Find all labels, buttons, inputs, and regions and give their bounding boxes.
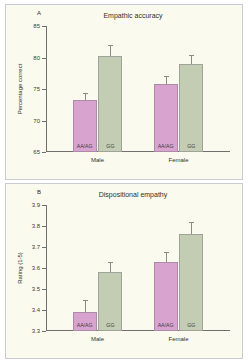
panel-b-y-tick-label: 3.9 bbox=[32, 202, 40, 208]
bar-female-gg: GG bbox=[179, 234, 203, 331]
panel-b-ylabel-text: Rating (1-5) bbox=[17, 252, 23, 284]
panel-a-y-tick-label: 65 bbox=[33, 149, 40, 155]
error-bar-cap bbox=[108, 262, 113, 263]
panel-a-ylabel-text: Percentage correct bbox=[17, 64, 23, 115]
bar-genotype-label: GG bbox=[99, 143, 121, 149]
panel-b-y-tick bbox=[42, 268, 46, 269]
bar-genotype-label: GG bbox=[99, 322, 121, 328]
bar-female-aa-ag: AA/AG bbox=[154, 262, 178, 331]
error-bar-cap bbox=[189, 222, 194, 223]
panel-b-y-tick bbox=[42, 205, 46, 206]
panel-b-y-tick-label: 3.5 bbox=[32, 286, 40, 292]
panel-a-title: Empathic accuracy bbox=[6, 12, 242, 19]
x-axis-group-label-male: Male bbox=[91, 157, 104, 163]
panel-a-y-tick-label: 80 bbox=[33, 55, 40, 61]
bar-female-aa-ag: AA/AG bbox=[154, 84, 178, 152]
panel-a-y-tick-label: 75 bbox=[33, 86, 40, 92]
panel-a-empathic-accuracy: A Empathic accuracy Percentage correct 6… bbox=[5, 4, 243, 180]
panel-a-y-axis bbox=[46, 26, 47, 152]
panel-a-y-tick bbox=[42, 152, 46, 153]
bar-male-aa-ag: AA/AG bbox=[73, 312, 97, 331]
panel-a-y-tick bbox=[42, 89, 46, 90]
panel-a-plot-area: 6570758085AA/AGGGMaleAA/AGGGFemale bbox=[46, 26, 230, 152]
panel-a-y-tick bbox=[42, 121, 46, 122]
bar-genotype-label: GG bbox=[180, 322, 202, 328]
bar-male-gg: GG bbox=[98, 56, 122, 152]
panel-a-y-tick-label: 70 bbox=[33, 118, 40, 124]
bar-female-gg: GG bbox=[179, 64, 203, 152]
panel-a-y-tick bbox=[42, 58, 46, 59]
error-bar bbox=[191, 56, 192, 64]
bar-male-gg: GG bbox=[98, 272, 122, 331]
error-bar-cap bbox=[108, 45, 113, 46]
panel-b-y-tick bbox=[42, 331, 46, 332]
bar-genotype-label: AA/AG bbox=[155, 322, 177, 328]
panel-a-y-tick bbox=[42, 26, 46, 27]
error-bar-cap bbox=[83, 300, 88, 301]
bar-genotype-label: GG bbox=[180, 143, 202, 149]
bar-male-aa-ag: AA/AG bbox=[73, 100, 97, 152]
error-bar bbox=[166, 77, 167, 84]
panel-b-dispositional-empathy: B Dispositional empathy Rating (1-5) 3.3… bbox=[5, 183, 243, 359]
bar-genotype-label: AA/AG bbox=[155, 143, 177, 149]
panel-b-y-tick bbox=[42, 289, 46, 290]
x-axis-group-label-male: Male bbox=[91, 336, 104, 342]
x-axis-group-label-female: Female bbox=[168, 157, 188, 163]
panel-b-title: Dispositional empathy bbox=[6, 191, 242, 198]
error-bar bbox=[85, 301, 86, 313]
error-bar bbox=[166, 253, 167, 262]
panel-b-y-tick-label: 3.4 bbox=[32, 307, 40, 313]
panel-b-ylabel: Rating (1-5) bbox=[15, 205, 25, 331]
panel-b-y-tick bbox=[42, 247, 46, 248]
panel-a-y-tick-label: 85 bbox=[33, 23, 40, 29]
bar-genotype-label: AA/AG bbox=[74, 143, 96, 149]
panel-b-y-tick bbox=[42, 310, 46, 311]
panel-b-plot-area: 3.33.43.53.63.73.83.9AA/AGGGMaleAA/AGGGF… bbox=[46, 205, 230, 331]
error-bar bbox=[110, 46, 111, 57]
error-bar bbox=[85, 94, 86, 100]
panel-a-ylabel: Percentage correct bbox=[15, 26, 25, 152]
error-bar-cap bbox=[83, 93, 88, 94]
error-bar bbox=[191, 223, 192, 235]
bar-genotype-label: AA/AG bbox=[74, 322, 96, 328]
panel-b-y-tick-label: 3.3 bbox=[32, 328, 40, 334]
error-bar bbox=[110, 263, 111, 272]
panel-b-y-tick-label: 3.6 bbox=[32, 265, 40, 271]
panel-b-y-tick-label: 3.8 bbox=[32, 223, 40, 229]
error-bar-cap bbox=[164, 76, 169, 77]
x-axis-group-label-female: Female bbox=[168, 336, 188, 342]
figure-container: A Empathic accuracy Percentage correct 6… bbox=[0, 0, 248, 364]
panel-b-y-axis bbox=[46, 205, 47, 331]
panel-b-y-tick-label: 3.7 bbox=[32, 244, 40, 250]
error-bar-cap bbox=[189, 55, 194, 56]
panel-b-y-tick bbox=[42, 226, 46, 227]
error-bar-cap bbox=[164, 252, 169, 253]
